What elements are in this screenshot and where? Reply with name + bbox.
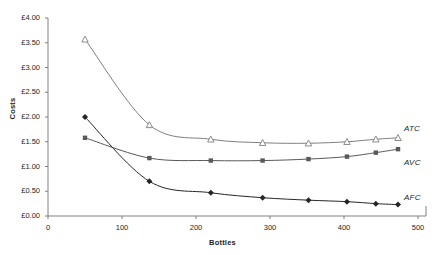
data-point-marker	[396, 147, 400, 151]
series-label-atc: ATC	[404, 124, 420, 133]
data-point-marker	[345, 154, 349, 158]
series-layer	[82, 36, 401, 208]
data-point-marker	[395, 202, 401, 208]
data-point-marker	[209, 158, 213, 162]
data-point-marker	[83, 136, 87, 140]
data-point-marker	[208, 190, 214, 196]
series-avc	[83, 136, 400, 163]
data-point-marker	[344, 199, 350, 205]
data-point-marker	[82, 36, 88, 42]
data-point-marker	[146, 178, 152, 184]
data-point-marker	[373, 201, 379, 207]
axis-lines	[45, 18, 426, 219]
series-label-afc: AFC	[404, 193, 421, 202]
series-label-avc: AVC	[404, 158, 421, 167]
data-point-marker	[306, 157, 310, 161]
data-point-marker	[305, 197, 311, 203]
series-line	[85, 39, 398, 143]
series-atc	[82, 36, 401, 146]
cost-curves-chart: Costs Bottles £0.00£0.50£1.00£1.50£2.00£…	[0, 0, 445, 255]
plot-area	[0, 0, 445, 255]
data-point-marker	[260, 195, 266, 201]
data-point-marker	[374, 150, 378, 154]
data-point-marker	[147, 156, 151, 160]
data-point-marker	[260, 158, 264, 162]
